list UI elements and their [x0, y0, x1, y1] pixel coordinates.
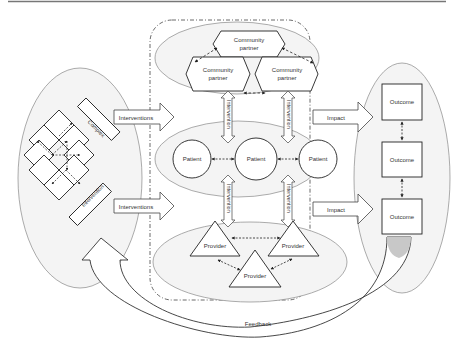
community-partner-right: Community partner [255, 57, 318, 91]
community-partner-left: Community partner [186, 57, 250, 91]
patient-right: Patient [299, 140, 337, 178]
svg-text:Patient: Patient [309, 156, 328, 162]
svg-text:Community: Community [203, 67, 233, 73]
svg-text:Patient: Patient [183, 156, 202, 162]
svg-text:Community: Community [234, 37, 264, 43]
svg-text:Intervention: Intervention [226, 184, 232, 213]
outcome-top: Outcome [382, 84, 422, 120]
patient-center: Patient [235, 138, 277, 180]
patient-left: Patient [173, 140, 211, 178]
outcome-middle: Outcome [382, 142, 422, 177]
svg-text:partner: partner [239, 45, 258, 51]
svg-text:partner: partner [277, 75, 296, 81]
svg-text:Outcome: Outcome [390, 214, 415, 220]
svg-text:Provider: Provider [244, 273, 266, 279]
complex-intervention-diagram: Complex Intervention Interventions Inter… [0, 0, 455, 344]
community-partner-top: Community partner [213, 31, 285, 57]
svg-text:Interventions: Interventions [119, 115, 153, 121]
svg-text:Impact: Impact [327, 115, 345, 121]
svg-text:Interventions: Interventions [119, 204, 153, 210]
svg-text:Community: Community [272, 67, 302, 73]
svg-text:partner: partner [208, 75, 227, 81]
svg-text:Outcome: Outcome [390, 157, 415, 163]
svg-text:Patient: Patient [247, 156, 266, 162]
outcome-bottom: Outcome [382, 199, 422, 234]
svg-text:Feedback: Feedback [245, 321, 272, 327]
svg-text:Impact: Impact [327, 207, 345, 213]
svg-text:Provider: Provider [204, 243, 226, 249]
svg-text:Outcome: Outcome [390, 99, 415, 105]
svg-text:Provider: Provider [282, 243, 304, 249]
svg-text:Intervention: Intervention [286, 100, 292, 129]
svg-text:Intervention: Intervention [226, 100, 232, 129]
svg-text:Intervention: Intervention [286, 184, 292, 213]
